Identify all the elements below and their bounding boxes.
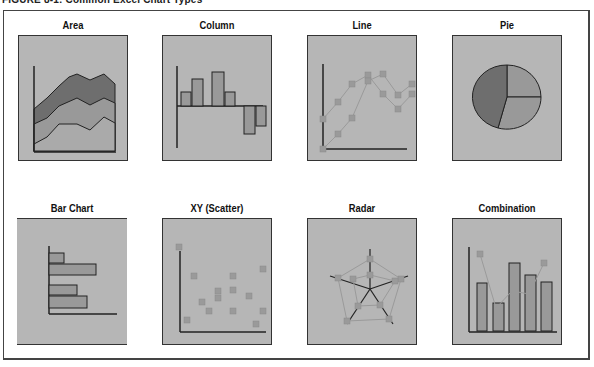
- combination-chart-graphic: [453, 219, 561, 344]
- chart-label-scatter: XY (Scatter): [170, 202, 264, 214]
- column-chart-thumbnail: [162, 35, 272, 161]
- chart-label-column: Column: [170, 19, 264, 31]
- radar-chart-thumbnail: [307, 218, 417, 345]
- line-chart-graphic: [308, 36, 416, 160]
- chart-label-pie: Pie: [460, 19, 554, 31]
- chart-label-combination: Combination: [460, 202, 554, 214]
- bar-chart-graphic: [17, 219, 127, 344]
- bar-chart-thumbnail: [17, 218, 127, 345]
- area-chart-graphic: [19, 36, 127, 160]
- combination-chart-thumbnail: [452, 218, 562, 345]
- chart-label-area: Area: [26, 19, 120, 31]
- chart-label-line: Line: [315, 19, 409, 31]
- line-chart-thumbnail: [307, 35, 417, 161]
- column-chart-graphic: [163, 36, 271, 160]
- chart-label-bar: Bar Chart: [25, 202, 119, 214]
- pie-chart-graphic: [453, 36, 561, 160]
- radar-chart-graphic: [308, 219, 416, 344]
- scatter-chart-thumbnail: [162, 218, 272, 345]
- figure-title: FIGURE 8-1: Common Excel Chart Types: [2, 0, 202, 5]
- chart-label-radar: Radar: [315, 202, 409, 214]
- pie-chart-thumbnail: [452, 35, 562, 161]
- scatter-chart-graphic: [163, 219, 271, 344]
- area-chart-thumbnail: [18, 35, 128, 161]
